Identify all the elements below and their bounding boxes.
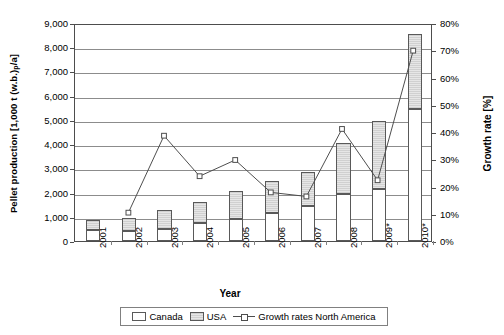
y-axis-right-tick-mark (432, 188, 436, 189)
y-axis-right-tick-mark (432, 133, 436, 134)
y-axis-right-tick-label: 70% (440, 46, 480, 56)
legend-swatch-canada-icon (132, 312, 146, 321)
category-separator (433, 241, 434, 245)
x-axis-tick-label: 2001 (97, 227, 108, 248)
growth-rate-marker (126, 210, 131, 215)
category-separator (326, 241, 327, 245)
category-separator (111, 241, 112, 245)
growth-rate-marker (411, 48, 416, 53)
category-separator (290, 241, 291, 245)
growth-rate-marker (162, 133, 167, 138)
y-axis-right-title-label: Growth rate [%] (482, 96, 493, 172)
y-axis-left-tick-label: 5,000 (24, 116, 68, 126)
category-separator (182, 241, 183, 245)
growth-rate-polyline (128, 51, 413, 213)
legend-swatch-line-marker-icon (233, 312, 255, 321)
y-axis-left-tick-label: 8,000 (24, 43, 68, 53)
y-axis-right-tick-mark (432, 51, 436, 52)
y-axis-left-tick-label: 9,000 (24, 19, 68, 29)
y-axis-right-tick-mark (432, 79, 436, 80)
growth-rate-marker (268, 190, 273, 195)
chart-figure: Pellet production [1,000 t (w.b.)p/a] Gr… (0, 0, 504, 335)
legend-swatch-usa-icon (190, 312, 204, 321)
x-axis-tick-label: 2004 (204, 227, 215, 248)
y-axis-right-tick-label: 0% (440, 237, 480, 247)
category-separator (254, 241, 255, 245)
x-axis-tick-label: 2005 (240, 227, 251, 248)
growth-rate-marker (233, 158, 238, 163)
y-axis-left-tick-label: 6,000 (24, 92, 68, 102)
x-axis-tick-label: 2003 (169, 227, 180, 248)
y-axis-right-title: Growth rate [%] (478, 24, 496, 242)
x-axis-title-label: Year (219, 288, 240, 299)
y-axis-left-title: Pellet production [1,000 t (w.b.)p/a] (4, 24, 22, 242)
category-separator (147, 241, 148, 245)
y-axis-right-tick-mark (432, 160, 436, 161)
category-separator (361, 241, 362, 245)
growth-rate-marker (340, 127, 345, 132)
y-axis-left-title-tail: /a] (8, 54, 19, 65)
y-axis-right-tick-label: 40% (440, 128, 480, 138)
y-axis-right-tick-label: 10% (440, 210, 480, 220)
y-axis-right-tick-label: 60% (440, 74, 480, 84)
y-axis-left-tick-label: 7,000 (24, 67, 68, 77)
legend-item-canada: Canada (132, 311, 182, 322)
y-axis-right-tick-mark (432, 24, 436, 25)
x-axis-tick-label: 2006 (276, 227, 287, 248)
y-axis-left-title-main: Pellet production [1,000 t (w.b.) (8, 70, 19, 213)
y-axis-right-tick-label: 30% (440, 155, 480, 165)
x-axis-title: Year (0, 288, 504, 299)
legend-item-growth-rates: Growth rates North America (233, 311, 375, 322)
y-axis-left-tick-label: 1,000 (24, 213, 68, 223)
category-separator (397, 241, 398, 245)
x-axis-tick-label: 2010* (419, 223, 430, 248)
growth-rate-marker (375, 178, 380, 183)
legend-item-usa: USA (190, 311, 227, 322)
y-axis-left-tick-label: 0 (24, 237, 68, 247)
legend-label-usa: USA (207, 311, 227, 322)
y-axis-left-tick-label: 4,000 (24, 140, 68, 150)
legend-label-growth-rates: Growth rates North America (258, 311, 375, 322)
y-axis-left-tick-mark (70, 242, 74, 243)
x-axis-tick-label: 2008 (348, 227, 359, 248)
legend-label-canada: Canada (149, 311, 182, 322)
plot-area (74, 24, 432, 242)
x-axis-tick-label: 2007 (312, 227, 323, 248)
y-axis-left-tick-label: 3,000 (24, 164, 68, 174)
category-separator (218, 241, 219, 245)
y-axis-right-tick-mark (432, 106, 436, 107)
x-axis-tick-label: 2002 (133, 227, 144, 248)
y-axis-left-title-sub: p (12, 65, 19, 69)
chart-legend: Canada USA Growth rates North America (120, 307, 388, 326)
y-axis-right-tick-label: 50% (440, 101, 480, 111)
growth-rate-marker (197, 174, 202, 179)
y-axis-right-tick-label: 20% (440, 183, 480, 193)
y-axis-right-tick-mark (432, 215, 436, 216)
y-axis-right-tick-label: 80% (440, 19, 480, 29)
y-axis-left-tick-label: 2,000 (24, 189, 68, 199)
growth-rate-marker (304, 194, 309, 199)
x-axis-tick-label: 2009* (383, 223, 394, 248)
growth-rate-line (75, 25, 431, 241)
